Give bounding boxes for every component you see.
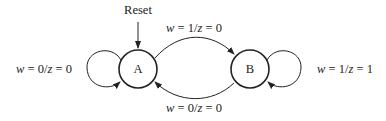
state-b-label: B [246,62,254,76]
transition-b-a [155,82,234,99]
self-loop-b [267,51,301,87]
transition-a-a-label: w = 0/z = 0 [16,62,72,76]
state-a-label: A [133,62,142,76]
reset-label: Reset [124,3,152,17]
state-diagram: Reset A B w = 0/z = 0 w = 1/z = 0 w = 0/… [0,0,386,121]
transition-b-b-label: w = 1/z = 1 [317,62,373,76]
self-loop-a [87,51,121,87]
transition-b-a-label: w = 0/z = 0 [166,101,222,115]
transition-a-b-label: w = 1/z = 0 [166,21,222,35]
transition-a-b [155,37,234,58]
